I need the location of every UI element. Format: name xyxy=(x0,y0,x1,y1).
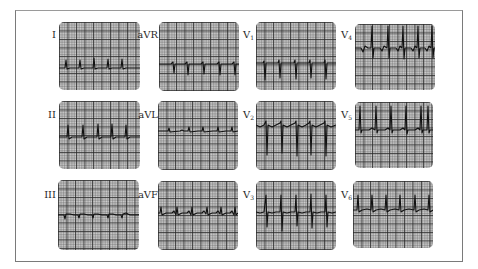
lead-label-aVF: aVF xyxy=(130,190,158,200)
ecg-strip-III xyxy=(58,180,139,250)
ecg-strip-V1 xyxy=(256,22,336,90)
lead-label-V2: V2 xyxy=(232,110,254,123)
lead-label-aVR: aVR xyxy=(130,30,158,40)
lead-label-I: I xyxy=(30,30,56,40)
ecg-strip-V6 xyxy=(353,181,433,248)
lead-label-III: III xyxy=(28,190,56,200)
lead-label-V3: V3 xyxy=(232,190,254,203)
ecg-strip-aVL xyxy=(158,101,238,170)
lead-label-aVL: aVL xyxy=(130,110,158,120)
lead-label-V1: V1 xyxy=(232,30,254,43)
lead-label-V4: V4 xyxy=(332,30,352,43)
ecg-strip-V3 xyxy=(256,181,336,250)
ecg-strip-V2 xyxy=(256,101,336,170)
ecg-strip-II xyxy=(59,101,140,169)
lead-label-V6: V6 xyxy=(332,190,352,203)
ecg-strip-V5 xyxy=(355,102,433,168)
ecg-strip-aVF xyxy=(158,181,238,250)
lead-label-V5: V5 xyxy=(332,110,352,123)
lead-label-II: II xyxy=(30,110,56,120)
ecg-strip-V4 xyxy=(355,24,435,90)
ecg-strip-I xyxy=(59,22,140,90)
ecg-strip-aVR xyxy=(159,22,239,91)
